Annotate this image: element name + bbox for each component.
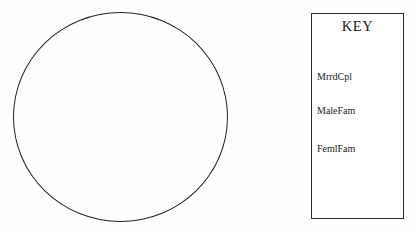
key-entry-mrrdcpl: MrrdCpl bbox=[317, 71, 352, 82]
key-title: KEY bbox=[312, 18, 403, 35]
set-circle[interactable] bbox=[13, 12, 228, 222]
diagram-canvas: KEY MrrdCpl MaleFam FemlFam bbox=[0, 0, 418, 233]
key-entry-femlfam: FemlFam bbox=[317, 143, 355, 154]
venn-diagram-area bbox=[0, 0, 250, 233]
key-entry-malefam: MaleFam bbox=[317, 105, 355, 116]
key-legend-box: KEY MrrdCpl MaleFam FemlFam bbox=[311, 13, 404, 219]
